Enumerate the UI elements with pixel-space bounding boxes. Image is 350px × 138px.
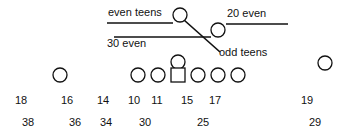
odd-teens-label: odd teens (219, 46, 268, 58)
line-5-circle-marker (211, 68, 225, 82)
back-right-circle-marker (211, 23, 225, 37)
wide-right-circle-marker (318, 56, 332, 70)
hole-number: 15 (181, 94, 193, 106)
hole-numbers-row-1: 1816141011151719 (15, 94, 313, 106)
hole-number: 10 (128, 94, 140, 106)
line-2-circle-marker (151, 68, 165, 82)
line-6-circle-marker (231, 68, 245, 82)
hole-number: 38 (22, 116, 34, 128)
wide-left-circle-marker (53, 68, 67, 82)
hole-number: 11 (151, 94, 162, 106)
hole-number: 19 (301, 94, 313, 106)
hole-number: 25 (197, 116, 209, 128)
hole-number: 36 (69, 116, 81, 128)
back-deep-circle-marker (173, 8, 187, 22)
hole-number: 29 (309, 116, 321, 128)
line-1-circle-marker (131, 68, 145, 82)
hole-number: 17 (209, 94, 221, 106)
hole-number: 18 (15, 94, 27, 106)
hole-numbers-row-2: 383634302529 (22, 116, 321, 128)
thirty-even-label: 30 even (107, 37, 146, 49)
even-teens-label: even teens (108, 6, 162, 18)
hole-number: 16 (61, 94, 73, 106)
quarterback-circle-marker (171, 55, 185, 69)
line-4-circle-marker (191, 68, 205, 82)
center-square-marker (171, 68, 185, 82)
formation-diagram: even teens20 even30 evenodd teens 181614… (0, 0, 350, 138)
hole-number: 14 (97, 94, 109, 106)
hole-number: 34 (100, 116, 112, 128)
players (53, 8, 332, 82)
twenty-even-label: 20 even (227, 7, 266, 19)
hole-number: 30 (139, 116, 151, 128)
